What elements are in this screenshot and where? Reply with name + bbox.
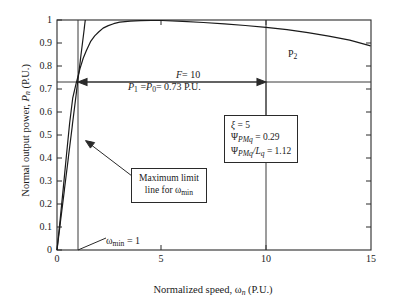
x-tick-label-10: 10 <box>251 253 281 264</box>
callout-line2-subscript: min <box>181 188 193 197</box>
y-axis-title-suffix: (P.U.) <box>20 64 31 91</box>
p0-value: = 0.73 P.U. <box>156 81 201 92</box>
param-xi-row: ξ = 5 <box>231 119 291 131</box>
p1-mid: = <box>138 81 146 92</box>
callout-line-1: Maximum limit <box>139 172 199 184</box>
axes-frame <box>57 20 371 250</box>
x-tick-label-0: 0 <box>42 253 72 264</box>
x-tick-label-15: 15 <box>356 253 386 264</box>
p2-subscript: 2 <box>294 52 298 61</box>
maximum-limit-callout-box: Maximum limit line for ωmin <box>131 168 207 203</box>
omega-min-value: = 1 <box>124 235 140 246</box>
x-axis-title-omega: ω <box>235 284 242 295</box>
callout-line2-prefix: line for <box>145 185 175 195</box>
p2-curve-label: P2 <box>288 48 297 61</box>
y-axis-title-prefix: Normal output power, <box>20 101 31 196</box>
y-axis-title-var: P <box>20 95 31 101</box>
psi2-subscript: PMq <box>238 148 253 157</box>
f-equals: = 10 <box>182 69 200 80</box>
x-tick-label-5: 5 <box>146 253 176 264</box>
y-axis-title-sub: n <box>23 91 32 95</box>
omega-min-symbol: ω <box>106 235 113 246</box>
xi-value: = 5 <box>235 120 250 130</box>
param-psi-row: ΨPMq = 0.29 <box>231 131 291 144</box>
omega-min-label: ωmin = 1 <box>106 235 140 248</box>
y-tick-label-0-1: 0.1 <box>18 221 52 232</box>
psi2-value: = 1.12 <box>265 146 292 156</box>
p2-curve <box>57 21 371 251</box>
y-tick-label-1: 1 <box>18 14 52 25</box>
y-axis-ticks-right <box>366 43 371 227</box>
omega-min-subscript: min <box>113 239 125 248</box>
p1-p0-label: P1 =P0= 0.73 P.U. <box>128 81 201 94</box>
psi-subscript: PMq <box>238 135 253 144</box>
f-ratio-label: F= 10 <box>176 69 200 80</box>
psi2-divisor: /L <box>253 146 261 156</box>
parameters-annotation-box: ξ = 5 ΨPMq = 0.29 ΨPMq/Lq = 1.12 <box>224 115 298 163</box>
limit-callout-leader <box>86 141 133 176</box>
y-axis-title: Normal output power, Pn (P.U.) <box>20 40 33 220</box>
callout-line-2: line for ωmin <box>139 184 199 198</box>
psi-value: = 0.29 <box>253 132 280 142</box>
psi-symbol: Ψ <box>231 132 238 142</box>
param-psi-over-lq-row: ΨPMq/Lq = 1.12 <box>231 145 291 158</box>
x-axis-title-suffix: (P.U.) <box>245 284 272 295</box>
chart-figure: 0 0.1 0.2 0.3 0.4 0.5 0.6 0.7 0.8 0.9 1 … <box>0 0 394 307</box>
psi2-symbol: Ψ <box>231 146 238 156</box>
x-axis-title-prefix: Normalized speed, <box>153 284 234 295</box>
x-axis-title: Normalized speed, ωn (P.U.) <box>113 284 313 297</box>
x-axis-ticks <box>161 245 266 250</box>
omega-min-leader <box>78 238 106 250</box>
